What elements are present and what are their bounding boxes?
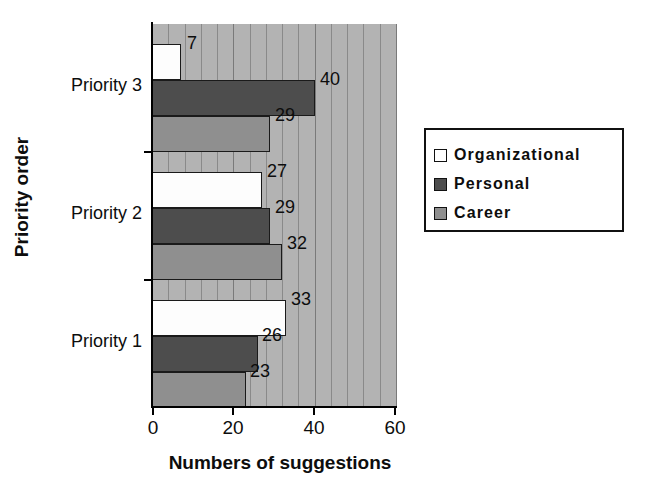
value-label-priority3-personal: 40 — [320, 70, 340, 88]
legend-label-career: Career — [454, 204, 511, 222]
legend-item-career: Career — [434, 199, 622, 227]
value-label-priority1-organizational: 33 — [291, 290, 311, 308]
bar-priority2-personal — [152, 208, 270, 244]
bar-priority2-organizational — [152, 172, 262, 208]
value-label-priority1-career: 23 — [250, 362, 270, 380]
y-tick-label-priority1: Priority 1 — [2, 332, 142, 350]
value-label-priority2-career: 32 — [287, 234, 307, 252]
gridline-56 — [380, 24, 381, 406]
gridline-48 — [347, 24, 348, 406]
legend-item-organizational: Organizational — [434, 141, 622, 169]
y-tick-mark-lower — [144, 279, 152, 281]
bar-chart-figure: 7 40 29 27 29 32 33 26 23 Priority 3 Pri… — [0, 0, 649, 498]
value-label-priority3-organizational: 7 — [187, 34, 197, 52]
plot-area — [152, 24, 396, 406]
x-tick-mark-20 — [232, 406, 234, 415]
x-tick-label-60: 60 — [373, 418, 417, 437]
x-tick-mark-40 — [313, 406, 315, 415]
value-label-priority3-career: 29 — [275, 106, 295, 124]
legend-label-organizational: Organizational — [454, 146, 581, 164]
x-axis-title: Numbers of suggestions — [120, 452, 440, 474]
value-label-priority2-personal: 29 — [275, 198, 295, 216]
x-tick-label-40: 40 — [292, 418, 336, 437]
x-tick-label-0: 0 — [131, 418, 175, 437]
gridline-60 — [396, 24, 397, 406]
bar-priority3-organizational — [152, 44, 181, 80]
legend-label-personal: Personal — [454, 175, 530, 193]
x-tick-label-20: 20 — [211, 418, 255, 437]
x-axis-line — [151, 406, 397, 408]
y-axis-title: Priority order — [11, 87, 33, 307]
x-tick-mark-60 — [394, 406, 396, 415]
bar-priority1-personal — [152, 336, 258, 372]
bar-priority3-career — [152, 116, 270, 152]
legend-swatch-personal-icon — [434, 178, 447, 191]
x-tick-mark-0 — [152, 406, 154, 415]
gridline-52 — [363, 24, 364, 406]
legend: Organizational Personal Career — [424, 128, 624, 232]
y-tick-mark-upper — [144, 151, 152, 153]
legend-swatch-career-icon — [434, 207, 447, 220]
bar-priority2-career — [152, 244, 282, 280]
bar-priority1-career — [152, 372, 246, 408]
value-label-priority1-personal: 26 — [262, 326, 282, 344]
legend-swatch-organizational-icon — [434, 149, 447, 162]
y-axis-line — [151, 22, 153, 408]
gridline-40 — [315, 24, 316, 406]
value-label-priority2-organizational: 27 — [267, 162, 287, 180]
legend-item-personal: Personal — [434, 170, 622, 198]
